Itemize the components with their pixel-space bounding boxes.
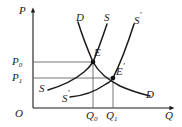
point-label-E: E: [94, 47, 101, 58]
supply-demand-figure: P Q O P0 P1 Q0 Q1 D S S' S S' D E E': [0, 0, 182, 127]
point-label-E-prime: E': [116, 63, 125, 77]
price-tick-p1-sub: 1: [19, 77, 23, 85]
curve-label-demand-low: D: [146, 89, 154, 100]
equilibrium-point-E: [91, 60, 96, 65]
quantity-tick-q0-letter: Q: [86, 109, 94, 121]
curve-label-demand-top: D: [76, 12, 84, 23]
price-tick-p1-letter: P: [12, 71, 19, 83]
price-tick-p1: P1: [12, 72, 22, 83]
prime-mark-supply-low: ': [68, 88, 70, 98]
demand-curve: [78, 22, 150, 96]
point-label-E-prime-letter: E: [116, 65, 123, 77]
origin-label: O: [15, 108, 23, 119]
figure-canvas: [0, 0, 182, 127]
curve-label-supply-shifted-top-letter: S: [134, 14, 140, 26]
curve-label-supply-top: S: [104, 12, 110, 23]
quantity-tick-q1-sub: 1: [114, 115, 118, 123]
quantity-tick-q0-sub: 0: [94, 115, 98, 123]
curve-label-supply-low: S: [39, 83, 45, 94]
y-axis-label: P: [19, 5, 26, 16]
price-tick-p0: P0: [12, 56, 22, 67]
quantity-tick-q0: Q0: [86, 110, 97, 121]
quantity-tick-q1: Q1: [106, 110, 117, 121]
quantity-tick-q1-letter: Q: [106, 109, 114, 121]
equilibrium-point-E-prime: [111, 76, 116, 81]
curve-label-supply-shifted-low: S': [62, 90, 69, 104]
prime-mark-supply-top: ': [140, 10, 142, 20]
price-tick-p0-letter: P: [12, 55, 19, 67]
curve-label-supply-shifted-top: S': [134, 12, 141, 26]
prime-mark-E: ': [123, 61, 125, 71]
x-axis-label: Q: [165, 110, 173, 121]
price-tick-p0-sub: 0: [19, 61, 23, 69]
curve-label-supply-shifted-low-letter: S: [62, 92, 68, 104]
